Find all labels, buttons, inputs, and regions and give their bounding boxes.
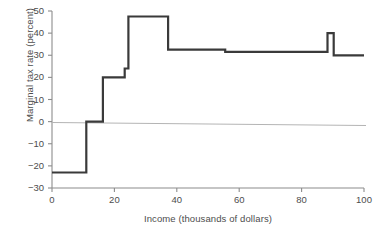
y-tick-label: −20 xyxy=(18,160,44,171)
x-tick-label: 100 xyxy=(349,194,378,205)
axis-spines xyxy=(52,11,364,188)
x-axis-ticks xyxy=(52,188,364,192)
x-tick-label: 20 xyxy=(99,194,129,205)
figure-chart-marginal-tax-rate: −30−20−1001020304050 020406080100 Margin… xyxy=(0,0,378,228)
y-tick-label: −30 xyxy=(18,182,44,193)
x-tick-label: 80 xyxy=(287,194,317,205)
x-tick-label: 60 xyxy=(224,194,254,205)
y-axis-title: Marginal tax rate (percent) xyxy=(24,8,35,122)
y-axis-ticks xyxy=(48,11,52,188)
x-axis-title: Income (thousands of dollars) xyxy=(144,213,272,224)
x-tick-label: 40 xyxy=(162,194,192,205)
data-series-step-line xyxy=(52,17,364,173)
x-axis-title-wrap: Income (thousands of dollars) xyxy=(52,208,364,226)
x-tick-label: 0 xyxy=(37,194,67,205)
zero-reference-line xyxy=(52,123,366,126)
y-axis-title-wrap: Marginal tax rate (percent) xyxy=(19,0,37,145)
